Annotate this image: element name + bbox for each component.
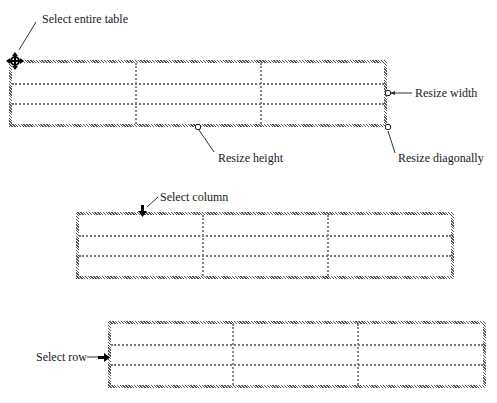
select-row-label: Select row <box>36 350 87 364</box>
resize-height-handle[interactable] <box>195 124 201 130</box>
select-column-label: Select column <box>160 190 228 204</box>
select-row-arrow-icon[interactable] <box>98 353 110 362</box>
resize-height-label: Resize height <box>218 151 283 165</box>
resize-diagonal-handle[interactable] <box>385 124 391 130</box>
callout-lines <box>0 0 497 403</box>
resize-width-label: Resize width <box>415 86 477 100</box>
select-column-arrow-icon[interactable] <box>138 205 147 217</box>
resize-width-handle[interactable] <box>385 90 391 96</box>
select-entire-table-label: Select entire table <box>42 12 128 26</box>
move-table-icon[interactable] <box>6 52 24 70</box>
resize-diagonally-label: Resize diagonally <box>398 151 484 165</box>
